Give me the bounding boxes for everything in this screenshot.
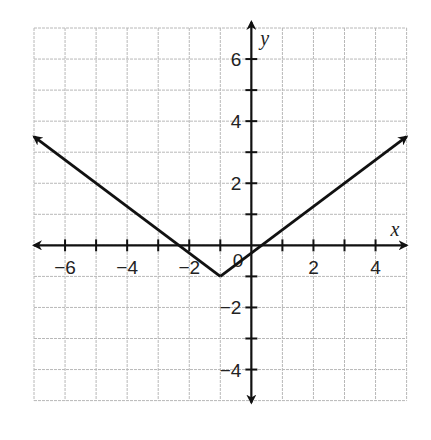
y-tick-label: −4 [220,360,242,381]
y-tick-label: 6 [231,49,242,70]
y-tick-label: 4 [231,111,242,132]
x-axis-label: x [390,218,400,240]
y-tick-label: 2 [231,173,242,194]
y-tick-label: −2 [220,297,242,318]
x-tick-label: −6 [54,257,76,278]
x-tick-label: 2 [308,257,319,278]
y-axis-label: y [258,27,269,50]
tick-labels: −6−4−224642−2−40xy [54,27,399,381]
x-tick-label: −4 [116,257,138,278]
graph: −6−4−224642−2−40xy [0,0,431,440]
grid-lines [34,28,407,401]
x-tick-label: 4 [370,257,381,278]
